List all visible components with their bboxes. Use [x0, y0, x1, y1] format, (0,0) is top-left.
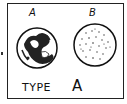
well-b-speckled-icon — [74, 24, 116, 66]
well-a-agglutinated-icon — [17, 28, 57, 68]
result-value: A — [72, 77, 82, 95]
result-label: TYPE — [22, 81, 51, 94]
wells-illustration — [0, 0, 127, 104]
